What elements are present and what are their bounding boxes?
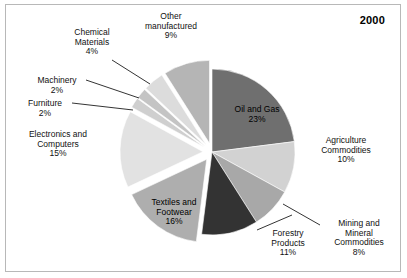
leader-line-furniture: [72, 103, 133, 110]
slice-label-furniture: Furniture 2%: [16, 99, 74, 118]
slice-label-other-manufactured: Other manufactured 9%: [130, 12, 212, 41]
slice-label-chemical-materials: Chemical Materials 4%: [62, 28, 122, 57]
leader-line-chemical: [112, 60, 150, 84]
chart-year-title: 2000: [360, 14, 385, 26]
slice-label-oil-and-gas: Oil and Gas 23%: [218, 105, 296, 124]
slice-label-mining-and-mineral-commodities: Mining and Mineral Commodities 8%: [318, 219, 400, 257]
slice-label-machinery: Machinery 2%: [26, 76, 88, 95]
slice-label-electronics-and-computers: Electronics and Computers 15%: [8, 130, 108, 159]
slice-label-agriculture-commodities: Agriculture Commodities 10%: [306, 136, 386, 165]
slice-label-textiles-and-footwear: Textiles and Footwear 16%: [138, 198, 210, 227]
leader-line-machinery: [86, 80, 139, 98]
pie-chart: 2000 Oil and Gas 23% Agriculture Commodi…: [0, 0, 407, 278]
slice-label-forestry-products: Forestry Products 11%: [258, 229, 318, 258]
leader-line-mining: [283, 204, 320, 225]
